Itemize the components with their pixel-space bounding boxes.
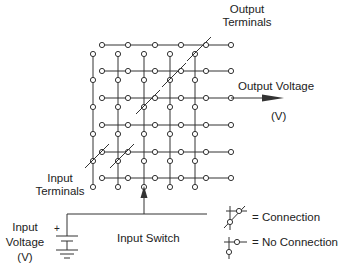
connection-marks [85, 37, 211, 168]
input-switch-label: Input Switch [117, 232, 180, 245]
input-terminals-line1: Input [30, 172, 90, 185]
input-voltage-unit: (V) [0, 250, 50, 265]
output-row-line [99, 175, 233, 180]
output-terminals-line1: Output [222, 3, 272, 16]
connection-mark [110, 144, 134, 168]
output-voltage-arrow [231, 95, 284, 102]
input-switch-arrow [141, 186, 148, 214]
battery-icon [56, 236, 78, 250]
input-terminals-label: Input Terminals [30, 172, 90, 198]
legend-connection-icon [224, 206, 247, 230]
input-column-line [192, 51, 197, 189]
output-voltage-unit: (V) [271, 110, 286, 123]
input-column-line [115, 51, 120, 189]
output-terminals-label: Output Terminals [222, 3, 272, 29]
output-voltage-label: Output Voltage [238, 80, 314, 93]
input-column-line [167, 51, 172, 189]
legend-no-connection-icon [224, 237, 247, 259]
output-row-line [99, 149, 233, 154]
output-row-line [99, 122, 233, 127]
connection-mark [136, 90, 160, 114]
legend-connection-label: = Connection [252, 211, 320, 224]
input-terminals-line2: Terminals [30, 185, 90, 198]
output-row-line [99, 95, 233, 100]
battery-plus-sign: + [54, 222, 60, 235]
input-voltage-label: Input Voltage (V) [0, 220, 50, 265]
connection-mark [162, 63, 186, 87]
connection-mark [85, 144, 109, 168]
connection-mark [187, 37, 211, 61]
input-column-line [90, 51, 95, 189]
input-column-line [141, 51, 146, 189]
switch-grid [90, 42, 233, 189]
crossbar-diagram [0, 0, 351, 268]
input-voltage-line2: Voltage [0, 235, 50, 250]
output-terminals-line2: Terminals [222, 16, 272, 29]
ground-icon [56, 250, 78, 258]
input-voltage-line1: Input [0, 220, 50, 235]
output-row-line [99, 68, 233, 73]
output-row-line [99, 42, 233, 47]
legend-no-connection-label: = No Connection [252, 236, 338, 249]
